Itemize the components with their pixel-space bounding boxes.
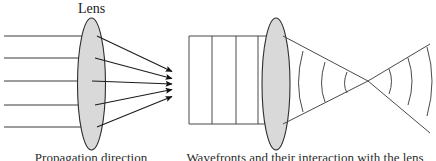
cone-upper-converging: [283, 36, 368, 81]
optics-diagram-canvas: Lens Propagation direction: [0, 0, 436, 161]
cone-lower-converging: [283, 81, 368, 124]
optics-figure: Lens Propagation direction: [0, 0, 436, 161]
plane-wavefronts: [189, 36, 258, 124]
diverging-wavefront-1: [389, 69, 392, 94]
converging-ray-1: [97, 36, 172, 72]
cone-upper-diverging: [368, 44, 430, 81]
converging-wavefronts: [299, 51, 348, 112]
diverging-wavefront-3: [427, 47, 432, 116]
diverging-wavefront-2: [408, 58, 412, 105]
converging-wavefront-1: [299, 51, 304, 112]
converging-wavefront-3: [345, 72, 348, 93]
converging-ray-5: [97, 97, 172, 128]
lens-label: Lens: [78, 1, 105, 16]
cone-lower-diverging: [368, 81, 430, 133]
right-panel-caption: Wavefronts and their interaction with th…: [186, 150, 423, 161]
wavefront-optics-panel: Wavefronts and their interaction with th…: [186, 18, 432, 161]
converging-wavefront-2: [322, 62, 326, 102]
converging-ray-4: [95, 90, 172, 106]
diverging-wavefronts: [389, 47, 432, 116]
left-panel-caption: Propagation direction: [35, 150, 148, 161]
converging-ray-2: [95, 58, 172, 79]
ray-optics-panel: Lens Propagation direction: [4, 1, 172, 161]
